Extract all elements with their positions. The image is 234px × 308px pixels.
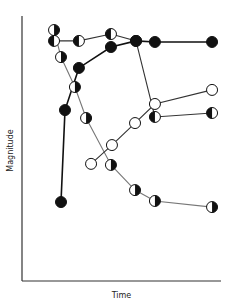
data-point-filled bbox=[207, 36, 218, 47]
data-point-half-filled-descending bbox=[49, 25, 60, 36]
data-point-half-filled-top bbox=[207, 107, 218, 118]
data-point-half-filled-top bbox=[105, 29, 116, 40]
y-axis-label: Magnitude bbox=[6, 121, 15, 181]
data-point-open bbox=[149, 98, 160, 109]
data-point-open bbox=[106, 140, 117, 151]
x-axis-label: Time bbox=[22, 291, 221, 300]
axes bbox=[22, 16, 221, 281]
data-point-filled bbox=[149, 36, 160, 47]
data-point-half-filled-descending bbox=[56, 52, 67, 63]
data-point-filled bbox=[56, 197, 67, 208]
data-point-filled bbox=[59, 105, 70, 116]
data-point-half-filled-descending bbox=[149, 195, 160, 206]
data-point-half-filled-descending bbox=[130, 185, 141, 196]
series-markers bbox=[49, 25, 218, 213]
data-point-open bbox=[130, 118, 141, 129]
data-point-half-filled-top bbox=[49, 35, 60, 46]
data-point-half-filled-descending bbox=[207, 202, 218, 213]
data-point-filled bbox=[131, 35, 142, 46]
line-chart bbox=[0, 0, 234, 308]
data-point-half-filled-descending bbox=[105, 159, 116, 170]
data-point-open bbox=[207, 84, 218, 95]
data-point-filled bbox=[73, 62, 84, 73]
data-point-half-filled-descending bbox=[81, 113, 92, 124]
data-point-half-filled-top bbox=[73, 35, 84, 46]
data-point-half-filled-descending bbox=[69, 82, 80, 93]
data-point-open bbox=[86, 158, 97, 169]
data-point-filled bbox=[105, 42, 116, 53]
data-point-half-filled-top bbox=[149, 111, 160, 122]
